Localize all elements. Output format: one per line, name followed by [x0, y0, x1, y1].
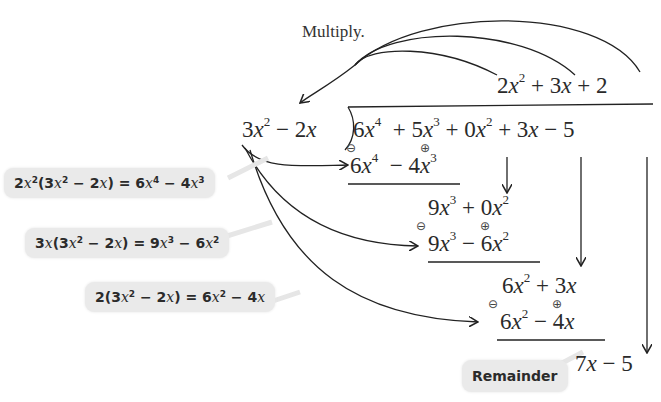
quotient: 2x2 + 3x + 2	[497, 74, 607, 97]
result-2: 6x2 + 3x	[502, 274, 576, 297]
dividend: 6x4 + 5x3 + 0x2 + 3x − 5	[353, 118, 575, 141]
multiply-arc-1	[355, 51, 497, 75]
quotient-term-2: 3x	[550, 73, 572, 98]
quotient-term-1: 2x2	[497, 73, 525, 98]
callout-step-1: 2x2(3x2 − 2x) = 6x4 − 4x3	[4, 168, 215, 198]
remainder-label: Remainder	[462, 360, 568, 392]
multiply-arc-2	[355, 36, 575, 75]
remainder-value: 7x − 5	[575, 352, 633, 375]
divisor: 3x2 − 2x	[242, 118, 316, 141]
result-1: 9x3 + 0x2	[428, 196, 509, 219]
multiply-label: Multiply.	[302, 22, 365, 42]
subtract-2: 9x3 − 6x2	[428, 232, 509, 255]
minus-circle-icon: ⊖	[416, 219, 426, 233]
callout-step-3: 2(3x2 − 2x) = 6x2 − 4x	[85, 282, 275, 312]
callout-step-2: 3x(3x2 − 2x) = 9x3 − 6x2	[25, 228, 229, 258]
arrows-layer	[0, 0, 661, 402]
subtract-3: 6x2 − 4x	[500, 310, 574, 333]
quotient-term-3: 2	[596, 73, 608, 98]
subtract-1: 6x4 − 4x3	[350, 154, 437, 177]
minus-circle-icon: ⊖	[488, 297, 498, 311]
division-bar	[348, 104, 653, 107]
